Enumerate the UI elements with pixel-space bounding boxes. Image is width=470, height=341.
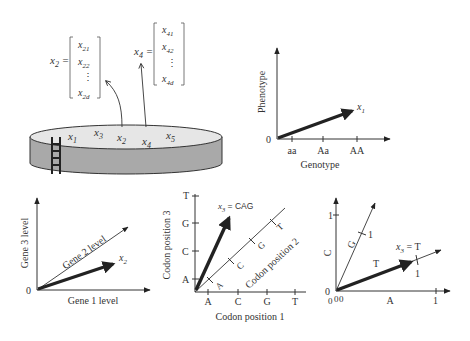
g-unit-tick: 1 — [368, 229, 373, 240]
chart-codon-positions: T G C A A C G T Codon position 1 Codon p… — [161, 190, 306, 322]
figure-canvas: x1 x3 x2 x4 x5 x2 = x21 x22 ⋮ x2d x4 = x… — [0, 0, 470, 341]
svg-text:⋮: ⋮ — [167, 57, 177, 68]
y-tick-C: C — [182, 246, 189, 257]
svg-text:x2d: x2d — [77, 87, 90, 101]
tick-Aa: Aa — [317, 145, 329, 156]
svg-text:x2 =: x2 = — [49, 54, 69, 69]
diag-tick-C: C — [235, 260, 246, 271]
codon2-axis-label: Codon position 2 — [243, 235, 301, 290]
origin-label: 0 — [26, 285, 31, 296]
svg-text:x22: x22 — [77, 56, 90, 70]
origin-label-4: 0 — [339, 294, 344, 304]
t-unit-tick: 1 — [415, 268, 420, 279]
c-unit-tick: 1 — [328, 210, 333, 221]
vector-x3-label: x3 = CAG — [217, 201, 253, 213]
vector-x4: x4 = x41 x42 ⋮ x4d — [133, 23, 184, 87]
vector-x2: x2 = x21 x22 ⋮ x2d — [49, 37, 100, 101]
arrow-x2-to-vector — [106, 81, 122, 127]
svg-text:⋮: ⋮ — [83, 71, 93, 82]
gene-pool: x1 x3 x2 x4 x5 — [30, 64, 222, 174]
vector-x1-arrow — [278, 111, 352, 138]
y-tick-A: A — [182, 274, 190, 285]
chart-phenotype-genotype: 0 aa Aa AA Genotype Phenotype x1 — [256, 48, 390, 170]
x-axis-label: Codon position 1 — [216, 311, 285, 322]
origin-label: 0 — [266, 134, 271, 145]
g-axis-label: G — [345, 239, 358, 250]
y-axis-label: Codon position 3 — [161, 211, 172, 280]
y-tick-G: G — [182, 218, 189, 229]
arrow-x4-to-vector — [141, 64, 146, 127]
x-tick-C: C — [235, 296, 242, 307]
diag-tick-G: G — [256, 239, 268, 251]
x-tick-G: G — [263, 296, 270, 307]
vector-x2-label: x2 — [118, 252, 127, 266]
diag-tick-A: A — [214, 279, 226, 291]
chart-unit-vectors: 1 1 C A 0 0 0 0 1 G 1 T x3 = T — [322, 198, 450, 306]
vector-x3-arrow — [196, 218, 229, 290]
tick-AA: AA — [350, 145, 365, 156]
vector-x2-arrow — [38, 264, 113, 289]
svg-text:x21: x21 — [77, 39, 89, 53]
vector-x3-label: x3 = T — [395, 241, 421, 255]
svg-text:x42: x42 — [161, 41, 174, 55]
y-tick-T: T — [183, 190, 189, 201]
x-tick-T: T — [292, 296, 298, 307]
y-axis-label: Phenotype — [256, 70, 267, 113]
x-axis-label: Genotype — [301, 159, 340, 170]
diag-tick-T: T — [275, 221, 286, 232]
x-axis-label: Gene 1 level — [68, 295, 119, 306]
tick-aa: aa — [288, 145, 297, 156]
pool-surface — [30, 125, 222, 149]
chart-gene-levels: Gene 2 level 0 Gene 1 level Gene 3 level… — [19, 198, 150, 306]
t-axis-label: T — [373, 258, 379, 269]
a-unit-tick: 1 — [433, 295, 438, 306]
origin-label-2: 0 — [328, 296, 333, 306]
svg-text:x4 =: x4 = — [133, 45, 153, 60]
a-axis-label: A — [386, 295, 394, 306]
y-axis-label: Gene 3 level — [19, 218, 30, 269]
vector-x1-label: x1 — [356, 101, 365, 115]
gene2-axis-label: Gene 2 level — [60, 233, 108, 271]
c-axis-label: C — [322, 249, 333, 256]
svg-text:x41: x41 — [161, 24, 173, 38]
x-tick-A: A — [204, 296, 212, 307]
svg-text:x4d: x4d — [161, 73, 174, 87]
